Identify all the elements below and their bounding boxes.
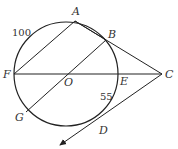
label-c: C <box>165 68 174 81</box>
label-o: O <box>64 76 73 89</box>
arc-fa-measure: 100 <box>12 27 31 38</box>
tangent-cd <box>60 74 162 145</box>
secant-bc <box>75 21 162 74</box>
label-f: F <box>2 68 11 81</box>
geometry-diagram: A B C D E F G O 100 55 <box>0 0 178 149</box>
label-g: G <box>15 111 24 124</box>
label-b: B <box>107 28 116 41</box>
label-d: D <box>98 124 108 137</box>
label-a: A <box>71 5 80 18</box>
arc-ed-measure: 55 <box>100 91 113 102</box>
label-e: E <box>119 75 128 88</box>
